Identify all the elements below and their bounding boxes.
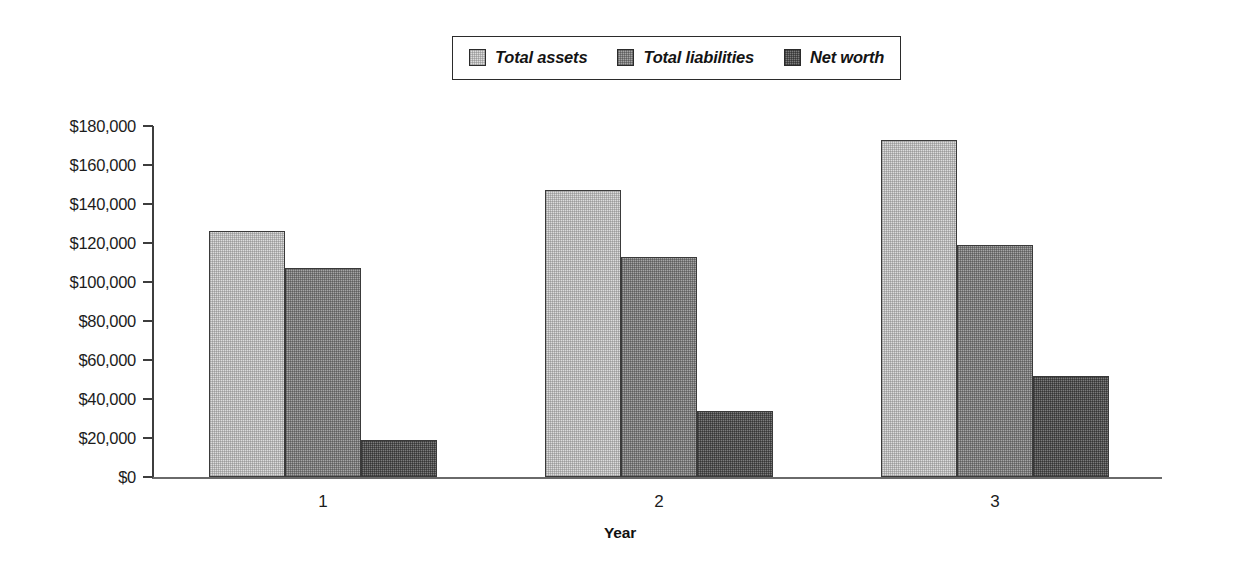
y-axis-tick [143, 164, 153, 165]
plot-area: $0$20,000$40,000$60,000$80,000$100,000$1… [0, 0, 1240, 575]
y-axis-tick-label: $20,000 [78, 429, 136, 448]
bar-total-liabilities [621, 257, 697, 477]
y-axis-tick-label: $60,000 [78, 351, 136, 370]
bar-total-liabilities [285, 268, 361, 477]
y-axis-tick [143, 437, 153, 438]
bar-total-assets [545, 190, 621, 477]
y-axis-tick-label: $40,000 [78, 390, 136, 409]
y-axis-line [152, 126, 154, 478]
bar-net-worth [1033, 376, 1109, 477]
x-axis-category-label: 2 [654, 492, 663, 512]
y-axis-tick-label: $160,000 [70, 156, 136, 175]
bar-total-assets [209, 231, 285, 477]
y-axis-tick [143, 476, 153, 477]
x-axis-category-label: 3 [990, 492, 999, 512]
bar-net-worth [361, 440, 437, 477]
x-axis-line [152, 477, 1162, 479]
y-axis-tick [143, 203, 153, 204]
y-axis-tick-label: $180,000 [70, 117, 136, 136]
y-axis-tick-label: $80,000 [78, 312, 136, 331]
y-axis-tick [143, 398, 153, 399]
y-axis-tick-label: $100,000 [70, 273, 136, 292]
y-axis-tick [143, 242, 153, 243]
bar-net-worth [697, 411, 773, 477]
y-axis-tick-label: $140,000 [70, 195, 136, 214]
y-axis-tick [143, 320, 153, 321]
bar-chart: Total assets Total liabilities Net worth… [0, 0, 1240, 575]
x-axis-title: Year [0, 524, 1240, 542]
bar-total-liabilities [957, 245, 1033, 477]
y-axis-tick-label: $120,000 [70, 234, 136, 253]
y-axis-tick [143, 125, 153, 126]
bar-total-assets [881, 140, 957, 477]
y-axis-tick-label: $0 [118, 468, 136, 487]
x-axis-category-label: 1 [318, 492, 327, 512]
y-axis-tick [143, 281, 153, 282]
y-axis-tick [143, 359, 153, 360]
